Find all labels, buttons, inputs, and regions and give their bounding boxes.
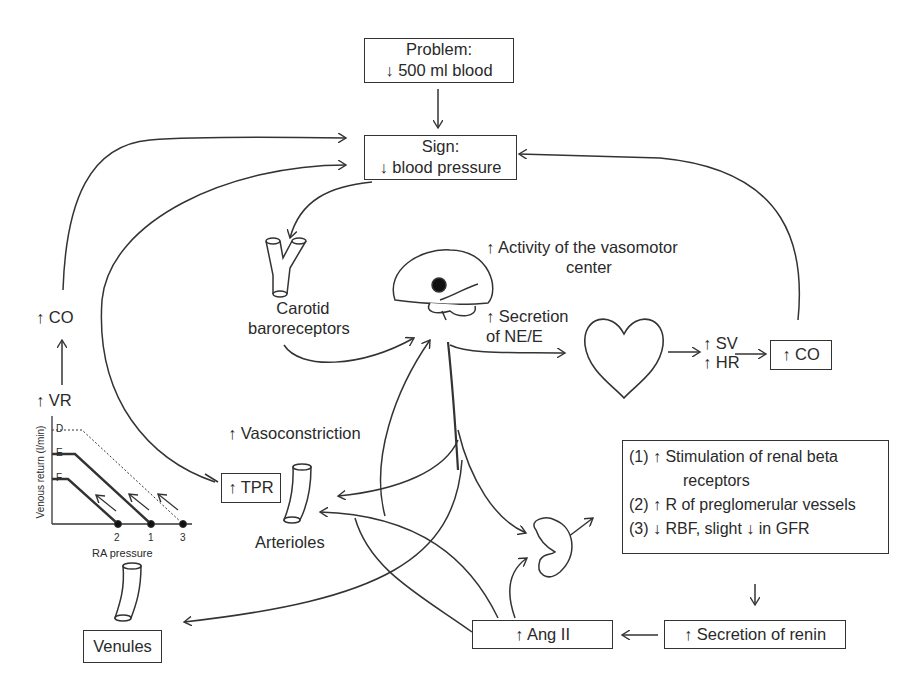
heart-icon — [585, 319, 663, 398]
vasoconstriction-label: ↑ Vasoconstriction — [228, 423, 361, 443]
renal-item-2: (2) ↑ R of preglomerular vessels — [629, 493, 882, 517]
arterioles-label: Arterioles — [255, 532, 325, 552]
renal-item-3: (3) ↓ RBF, slight ↓ in GFR — [629, 517, 882, 541]
renal-item-1: (1) ↑ Stimulation of renal beta receptor… — [629, 445, 882, 493]
curve-e-label: E — [56, 443, 63, 463]
arrow-brain-to-arterioles — [338, 440, 458, 496]
arrow-carotid-to-brain — [284, 338, 414, 362]
problem-text: ↓ 500 ml blood — [365, 60, 513, 81]
curve-f-label: F — [56, 468, 62, 488]
graph-xlabel: RA pressure — [92, 543, 153, 563]
brain-stem-line — [448, 342, 458, 470]
ang-ii-box: ↑ Ang II — [472, 620, 613, 649]
co-box: ↑ CO — [770, 340, 832, 370]
problem-box: Problem: ↓ 500 ml blood — [364, 38, 514, 83]
arrow-sign-to-carotid — [290, 182, 372, 238]
secretion-ne-label: ↑ Secretion of NE/E — [486, 306, 569, 346]
tpr-box: ↑ TPR — [221, 473, 281, 503]
point-1-label: 1 — [148, 528, 154, 548]
brain-icon — [393, 250, 493, 320]
venous-return-graph — [52, 416, 192, 528]
arrow-brain-to-heart — [450, 345, 565, 353]
problem-title: Problem: — [365, 39, 513, 60]
arrow-ang-to-kidney — [510, 558, 527, 618]
vasomotor-label: ↑ Activity of the vasomotor center — [486, 237, 678, 277]
carotid-label: Carotid baroreceptors — [248, 298, 350, 338]
kidney-icon — [534, 518, 572, 577]
heart-outputs-label: ↑ SV ↑ HR — [703, 334, 740, 372]
arrow-leftco-to-sign — [63, 137, 346, 290]
left-vr-label: ↑ VR — [36, 390, 72, 410]
sv-label: ↑ SV — [703, 334, 740, 353]
carotid-artery-icon — [266, 238, 306, 297]
graph-ylabel: Venous return (l/min) — [31, 417, 51, 527]
arrow-ang-to-arterioles — [320, 512, 498, 618]
curve-d-label: D — [56, 419, 63, 439]
hr-label: ↑ HR — [703, 353, 740, 372]
venule-icon — [115, 563, 141, 621]
venules-box: Venules — [83, 630, 162, 663]
point-3-label: 3 — [180, 528, 186, 548]
sign-title: Sign: — [365, 136, 516, 157]
sign-box: Sign: ↓ blood pressure — [364, 135, 517, 180]
arrow-ang-to-brain — [381, 340, 430, 516]
arrow-brain-to-kidney — [458, 430, 526, 533]
arteriole-icon — [284, 464, 311, 523]
renal-effects-box: (1) ↑ Stimulation of renal beta receptor… — [622, 440, 889, 554]
renin-box: ↑ Secretion of renin — [664, 620, 846, 649]
sign-text: ↓ blood pressure — [365, 157, 516, 178]
line-arterioles-to-ang — [355, 518, 472, 632]
left-co-label: ↑ CO — [36, 307, 74, 327]
point-2-label: 2 — [114, 528, 120, 548]
